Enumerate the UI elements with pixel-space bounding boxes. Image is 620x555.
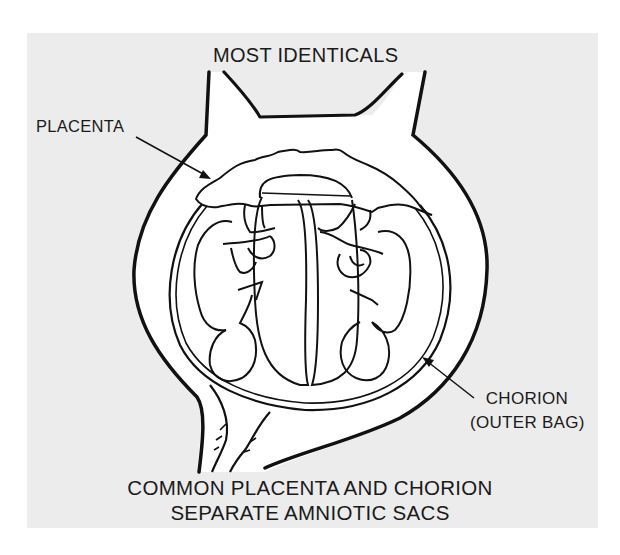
chorion-label-line1: CHORION [470, 387, 584, 411]
uterus-illustration [0, 0, 620, 555]
placenta-label: PLACENTA [36, 117, 124, 136]
chorion-label-line2: (OUTER BAG) [470, 411, 584, 435]
uterus-outline [134, 72, 487, 472]
caption-line-2: SEPARATE AMNIOTIC SACS [0, 501, 620, 525]
diagram-title: MOST IDENTICALS [213, 44, 398, 67]
caption-line-1: COMMON PLACENTA AND CHORION [0, 476, 620, 500]
chorion-label: CHORION (OUTER BAG) [470, 387, 584, 435]
